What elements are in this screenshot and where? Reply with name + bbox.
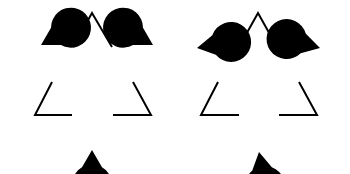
illusion-canvas [0, 0, 350, 174]
